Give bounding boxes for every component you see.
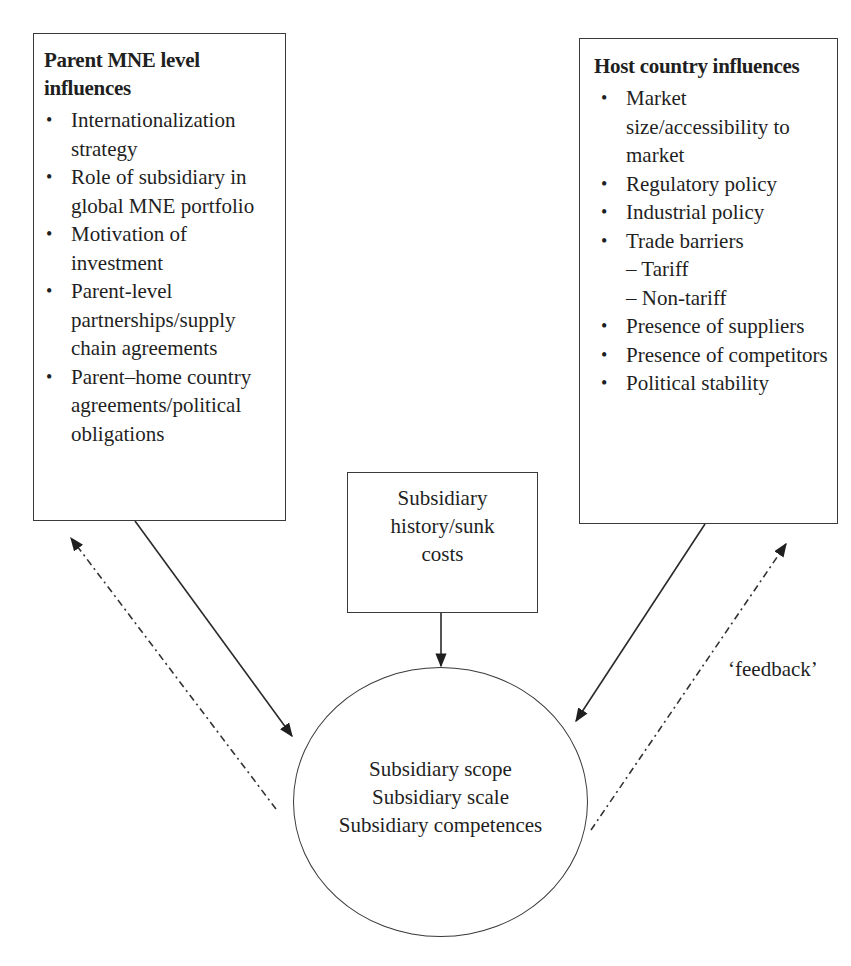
list-item: Parent-level partnerships/supply chain a…: [44, 277, 279, 363]
subsidiary-outcome-circle: Subsidiary scope Subsidiary scale Subsid…: [293, 667, 588, 937]
list-item: Internationalization strategy: [44, 106, 279, 163]
trade-barriers-label: Trade barriers: [626, 229, 744, 253]
sub-list-item: – Tariff: [626, 255, 831, 284]
host-country-influences-box: Host country influences Market size/acce…: [579, 38, 838, 524]
list-item: Parent–home country agreements/political…: [44, 363, 279, 449]
list-item-trade-barriers: Trade barriers – Tariff – Non-tariff: [599, 227, 831, 313]
feedback-label: ‘feedback’: [728, 655, 818, 683]
parent-influences-list: Internationalization strategy Role of su…: [44, 106, 279, 448]
arrow-host-to-outcome: [576, 524, 705, 721]
subsidiary-history-box: Subsidiary history/sunk costs: [347, 472, 538, 613]
parent-mne-influences-box: Parent MNE level influences Internationa…: [33, 33, 286, 521]
list-item: Regulatory policy: [599, 170, 831, 199]
feedback-arrow-to-host: [591, 544, 786, 830]
trade-barriers-sublist: – Tariff – Non-tariff: [626, 255, 831, 312]
list-item: Market size/accessibility to market: [599, 84, 831, 170]
host-influences-list: Market size/accessibility to market Regu…: [599, 84, 831, 398]
history-line: history/sunk: [348, 512, 537, 540]
list-item: Political stability: [599, 369, 831, 398]
list-item: Role of subsidiary in global MNE portfol…: [44, 163, 279, 220]
sub-list-item: – Non-tariff: [626, 284, 831, 313]
list-item: Industrial policy: [599, 198, 831, 227]
history-line: Subsidiary: [348, 484, 537, 512]
parent-box-title: Parent MNE level influences: [44, 46, 279, 102]
outcome-line: Subsidiary scope: [369, 755, 512, 783]
history-line: costs: [348, 540, 537, 568]
host-box-title: Host country influences: [594, 52, 831, 80]
list-item: Presence of competitors: [599, 341, 831, 370]
list-item: Presence of suppliers: [599, 312, 831, 341]
outcome-line: Subsidiary competences: [339, 811, 543, 839]
outcome-line: Subsidiary scale: [372, 783, 509, 811]
list-item: Motivation of investment: [44, 220, 279, 277]
feedback-arrow-to-parent: [71, 538, 276, 809]
arrow-parent-to-outcome: [135, 521, 292, 736]
